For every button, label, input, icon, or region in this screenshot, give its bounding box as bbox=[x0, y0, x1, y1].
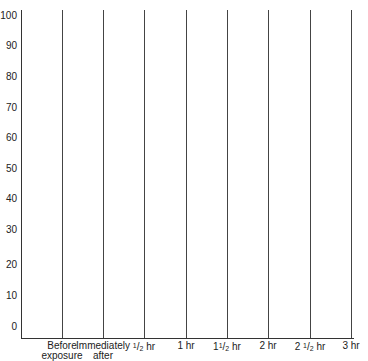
y-tick-label: 30 bbox=[0, 225, 17, 235]
y-tick-label: 0 bbox=[0, 322, 17, 332]
y-tick-label: 20 bbox=[0, 260, 17, 270]
x-label-3-hr: 3 hr bbox=[321, 341, 368, 351]
gridline-immediately-after bbox=[103, 10, 104, 338]
x-label-whole: 3 hr bbox=[342, 340, 359, 351]
gridline-1-half-hr bbox=[227, 10, 228, 338]
gridline-1-hr bbox=[186, 10, 187, 338]
y-tick-label: 50 bbox=[0, 164, 17, 174]
gridline-before-exposure bbox=[62, 10, 63, 338]
y-tick-label: 80 bbox=[0, 72, 17, 82]
x-axis-line bbox=[21, 338, 354, 339]
y-tick-label: 40 bbox=[0, 194, 17, 204]
y-tick-label: 60 bbox=[0, 133, 17, 143]
x-label-numerator: 1 bbox=[219, 342, 223, 349]
x-label-whole: 1 hr bbox=[177, 340, 194, 351]
x-label-unit: hr bbox=[143, 341, 155, 352]
gridline-3-hr bbox=[351, 10, 352, 338]
y-axis-line bbox=[21, 10, 22, 338]
y-tick-label: 10 bbox=[0, 291, 17, 301]
x-label-numerator: 1 bbox=[133, 342, 137, 349]
x-label-numerator: 1 bbox=[303, 342, 307, 349]
y-tick-label: 90 bbox=[0, 41, 17, 51]
gridline-2-hr bbox=[268, 10, 269, 338]
gridline-half-hr bbox=[144, 10, 145, 338]
y-tick-label: 100 bbox=[0, 11, 17, 21]
gridline-2-half-hr bbox=[310, 10, 311, 338]
y-tick-label: 70 bbox=[0, 103, 17, 113]
x-label-whole: 2 bbox=[295, 341, 303, 352]
x-label-whole: 2 hr bbox=[259, 340, 276, 351]
